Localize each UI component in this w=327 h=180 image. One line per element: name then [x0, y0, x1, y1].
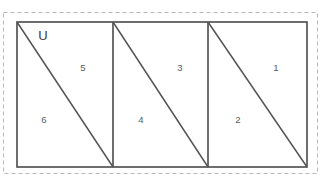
universe-label: U	[38, 28, 47, 43]
main-rectangle-outline	[17, 22, 307, 167]
figure-canvas: U 6 5 4 3 2 1	[0, 0, 327, 180]
region-label-3: 3	[177, 62, 182, 73]
region-label-2: 2	[235, 114, 240, 125]
region-label-4: 4	[138, 114, 143, 125]
region-label-6: 6	[41, 114, 46, 125]
region-label-1: 1	[273, 62, 278, 73]
region-label-5: 5	[80, 62, 85, 73]
venn-partition-figure: U 6 5 4 3 2 1	[0, 0, 327, 180]
